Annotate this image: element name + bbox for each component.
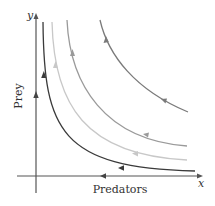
y-axis-arrowhead-icon — [34, 13, 39, 19]
phase-portrait-diagram: y x Predators Prey — [0, 0, 215, 206]
y-axis-label: Prey — [12, 83, 25, 109]
trajectory-4-left-arrow-icon — [161, 99, 167, 104]
trajectory-4-up-arrow-icon — [104, 36, 109, 43]
y-axis-flow-arrow-icon — [33, 91, 38, 98]
trajectories — [43, 20, 195, 171]
x-axis-letter: x — [198, 177, 205, 190]
trajectory-3 — [67, 20, 187, 146]
axes — [17, 13, 203, 193]
trajectory-1 — [43, 22, 195, 171]
trajectory-1-left-arrow-icon — [118, 165, 124, 170]
x-axis-flow-arrow-icon — [100, 173, 106, 178]
trajectory-2-up-arrow-icon — [53, 61, 58, 68]
x-axis-label: Predators — [93, 183, 148, 196]
trajectory-arrows — [41, 36, 167, 171]
trajectory-4 — [100, 20, 188, 112]
y-axis-letter: y — [26, 9, 34, 22]
